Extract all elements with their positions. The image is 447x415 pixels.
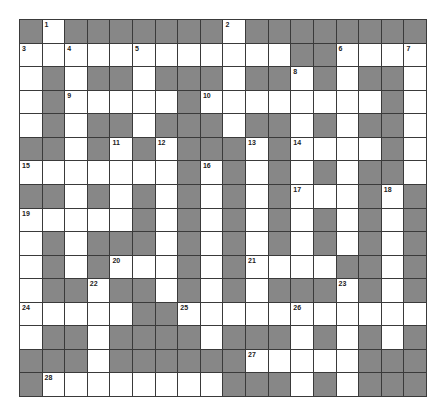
answer-cell[interactable] — [314, 256, 336, 279]
answer-cell[interactable] — [201, 44, 223, 67]
answer-cell[interactable] — [20, 326, 42, 349]
answer-cell[interactable] — [133, 67, 155, 90]
answer-cell[interactable] — [156, 161, 178, 184]
answer-cell[interactable]: 8 — [291, 67, 313, 90]
answer-cell[interactable]: 20 — [110, 256, 132, 279]
answer-cell[interactable]: 7 — [404, 44, 426, 67]
answer-cell[interactable] — [156, 256, 178, 279]
answer-cell[interactable] — [110, 91, 132, 114]
answer-cell[interactable]: 19 — [20, 209, 42, 232]
answer-cell[interactable]: 3 — [20, 44, 42, 67]
answer-cell[interactable] — [110, 373, 132, 396]
answer-cell[interactable] — [133, 114, 155, 137]
answer-cell[interactable] — [337, 185, 359, 208]
answer-cell[interactable] — [223, 44, 245, 67]
answer-cell[interactable] — [404, 303, 426, 326]
answer-cell[interactable]: 25 — [178, 303, 200, 326]
answer-cell[interactable] — [20, 279, 42, 302]
answer-cell[interactable]: 23 — [337, 279, 359, 302]
answer-cell[interactable] — [65, 373, 87, 396]
answer-cell[interactable] — [382, 232, 404, 255]
answer-cell[interactable] — [201, 373, 223, 396]
answer-cell[interactable] — [246, 232, 268, 255]
answer-cell[interactable] — [291, 326, 313, 349]
answer-cell[interactable] — [156, 44, 178, 67]
answer-cell[interactable] — [314, 138, 336, 161]
answer-cell[interactable] — [65, 232, 87, 255]
answer-cell[interactable] — [246, 303, 268, 326]
answer-cell[interactable] — [404, 138, 426, 161]
answer-cell[interactable] — [337, 67, 359, 90]
answer-cell[interactable] — [20, 114, 42, 137]
answer-cell[interactable] — [314, 185, 336, 208]
answer-cell[interactable]: 17 — [291, 185, 313, 208]
answer-cell[interactable] — [223, 303, 245, 326]
answer-cell[interactable]: 9 — [65, 91, 87, 114]
answer-cell[interactable] — [156, 185, 178, 208]
answer-cell[interactable] — [359, 44, 381, 67]
answer-cell[interactable]: 2 — [223, 20, 245, 43]
answer-cell[interactable] — [382, 44, 404, 67]
answer-cell[interactable] — [269, 303, 291, 326]
answer-cell[interactable] — [20, 91, 42, 114]
answer-cell[interactable] — [201, 326, 223, 349]
answer-cell[interactable] — [337, 138, 359, 161]
answer-cell[interactable] — [65, 161, 87, 184]
answer-cell[interactable] — [404, 161, 426, 184]
answer-cell[interactable] — [88, 373, 110, 396]
answer-cell[interactable] — [43, 44, 65, 67]
answer-cell[interactable] — [337, 350, 359, 373]
answer-cell[interactable] — [88, 209, 110, 232]
answer-cell[interactable] — [337, 161, 359, 184]
answer-cell[interactable] — [359, 91, 381, 114]
answer-cell[interactable] — [404, 91, 426, 114]
answer-cell[interactable] — [314, 91, 336, 114]
answer-cell[interactable] — [291, 373, 313, 396]
answer-cell[interactable] — [65, 67, 87, 90]
answer-cell[interactable] — [65, 185, 87, 208]
answer-cell[interactable] — [88, 350, 110, 373]
answer-cell[interactable] — [223, 91, 245, 114]
answer-cell[interactable] — [404, 114, 426, 137]
answer-cell[interactable] — [201, 232, 223, 255]
answer-cell[interactable]: 26 — [291, 303, 313, 326]
answer-cell[interactable] — [133, 91, 155, 114]
answer-cell[interactable] — [291, 232, 313, 255]
answer-cell[interactable]: 27 — [246, 350, 268, 373]
answer-cell[interactable] — [246, 185, 268, 208]
answer-cell[interactable] — [291, 91, 313, 114]
answer-cell[interactable] — [337, 91, 359, 114]
answer-cell[interactable] — [201, 209, 223, 232]
answer-cell[interactable]: 21 — [246, 256, 268, 279]
answer-cell[interactable]: 4 — [65, 44, 87, 67]
answer-cell[interactable] — [201, 185, 223, 208]
answer-cell[interactable] — [337, 232, 359, 255]
answer-cell[interactable] — [291, 209, 313, 232]
answer-cell[interactable] — [65, 256, 87, 279]
answer-cell[interactable] — [20, 256, 42, 279]
answer-cell[interactable] — [246, 91, 268, 114]
answer-cell[interactable] — [337, 303, 359, 326]
answer-cell[interactable] — [223, 67, 245, 90]
answer-cell[interactable] — [382, 279, 404, 302]
answer-cell[interactable] — [337, 326, 359, 349]
answer-cell[interactable]: 24 — [20, 303, 42, 326]
answer-cell[interactable]: 28 — [43, 373, 65, 396]
answer-cell[interactable] — [110, 185, 132, 208]
answer-cell[interactable] — [88, 91, 110, 114]
answer-cell[interactable] — [133, 256, 155, 279]
answer-cell[interactable] — [201, 303, 223, 326]
answer-cell[interactable] — [65, 138, 87, 161]
answer-cell[interactable] — [382, 256, 404, 279]
answer-cell[interactable] — [110, 161, 132, 184]
answer-cell[interactable] — [201, 279, 223, 302]
answer-cell[interactable] — [110, 44, 132, 67]
answer-cell[interactable] — [291, 114, 313, 137]
answer-cell[interactable] — [314, 350, 336, 373]
answer-cell[interactable] — [65, 209, 87, 232]
answer-cell[interactable]: 6 — [337, 44, 359, 67]
answer-cell[interactable] — [156, 373, 178, 396]
answer-cell[interactable]: 5 — [133, 44, 155, 67]
answer-cell[interactable]: 16 — [201, 161, 223, 184]
answer-cell[interactable] — [269, 256, 291, 279]
